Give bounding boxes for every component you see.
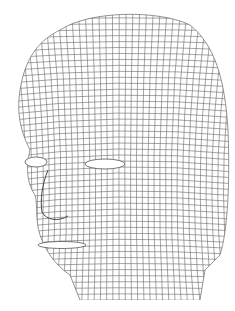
head-mesh-svg — [0, 0, 235, 311]
mesh-lines — [0, 0, 235, 311]
right-eye-opening — [85, 159, 125, 169]
left-eye-opening — [25, 157, 47, 167]
mouth-opening — [38, 242, 86, 249]
wireframe-head-illustration — [0, 0, 235, 311]
